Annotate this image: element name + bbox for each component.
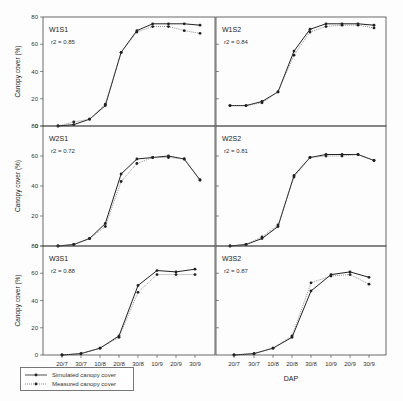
data-point (194, 268, 197, 271)
data-point (151, 25, 154, 28)
data-point (120, 180, 123, 183)
data-point (135, 158, 138, 161)
data-point (357, 153, 360, 156)
data-point (199, 24, 202, 27)
data-point (373, 27, 376, 30)
measured-series-line (58, 158, 200, 247)
x-tick-label: 30/9 (189, 361, 201, 367)
y-tick-label: 80 (31, 14, 38, 20)
panel-frame (43, 17, 215, 126)
data-point (293, 50, 296, 53)
y-tick-label: 80 (31, 123, 38, 129)
data-point (261, 101, 264, 104)
data-point (341, 24, 344, 27)
y-tick-label: 20 (31, 213, 38, 219)
data-point (357, 24, 360, 27)
data-point (199, 179, 202, 182)
x-tick-label: 20/7 (228, 361, 240, 367)
panel-r2: r2 = 0.87 (224, 268, 249, 274)
data-point (104, 225, 107, 228)
data-point (80, 352, 83, 355)
legend-item-measured: Measured canopy cover (25, 379, 116, 388)
data-point (61, 354, 64, 357)
simulated-series-line (62, 269, 195, 355)
data-point (253, 352, 256, 355)
data-point (72, 121, 75, 124)
panel-title: W2S2 (222, 135, 241, 142)
canopy-cover-figure: 020406080Canopy cover (%)W1S1r2 = 0.85W1… (0, 0, 403, 401)
y-tick-label: 0 (35, 352, 39, 358)
data-point (309, 156, 312, 159)
panel-frame (43, 126, 215, 246)
data-point (261, 236, 264, 239)
panel-frame (216, 17, 386, 126)
data-point (368, 283, 371, 286)
data-point (175, 270, 178, 273)
data-point (118, 336, 121, 339)
data-point (325, 25, 328, 28)
x-tick-label: 20/9 (344, 361, 356, 367)
x-tick-label: 10/9 (325, 361, 337, 367)
panel-frame (216, 246, 386, 355)
data-point (120, 173, 123, 176)
data-point (156, 269, 159, 272)
panel-r2: r2 = 0.84 (224, 39, 249, 45)
data-point (330, 275, 333, 278)
y-axis-label: Canopy cover (%) (14, 274, 22, 326)
panel-r2: r2 = 0.81 (224, 148, 249, 154)
data-point (373, 159, 376, 162)
data-point (310, 281, 313, 284)
x-tick-label: 30/9 (363, 361, 375, 367)
data-point (341, 155, 344, 158)
panel-r2: r2 = 0.72 (51, 148, 76, 154)
data-point (373, 24, 376, 27)
data-point (325, 155, 328, 158)
panel-r2: r2 = 0.85 (51, 39, 76, 45)
panel-r2: r2 = 0.88 (51, 268, 76, 274)
legend: Simulated canopy cover Measured canopy c… (20, 367, 134, 391)
data-point (310, 290, 313, 293)
data-point (156, 273, 159, 276)
panel-title: W3S2 (222, 255, 241, 262)
data-point (309, 28, 312, 31)
y-tick-label: 80 (31, 243, 38, 249)
data-point (167, 156, 170, 159)
y-tick-label: 60 (31, 41, 38, 47)
measured-series-line (230, 155, 374, 247)
data-point (167, 25, 170, 28)
panel-frame (43, 246, 215, 355)
y-tick-label: 60 (31, 270, 38, 276)
panel-title: W3S1 (49, 255, 68, 262)
data-point (349, 273, 352, 276)
x-tick-label: 20/8 (286, 361, 298, 367)
data-point (293, 176, 296, 179)
panel-title: W1S1 (49, 26, 68, 33)
y-tick-label: 40 (31, 298, 38, 304)
data-point (135, 31, 138, 34)
data-point (194, 273, 197, 276)
data-point (137, 284, 140, 287)
data-point (233, 354, 236, 357)
y-tick-label: 40 (31, 183, 38, 189)
x-tick-label: 30/8 (132, 361, 144, 367)
data-point (229, 104, 232, 107)
y-tick-label: 20 (31, 96, 38, 102)
data-point (272, 347, 275, 350)
x-axis-label: DAP (284, 375, 299, 382)
data-point (135, 162, 138, 165)
measured-series-line (62, 275, 195, 355)
data-point (277, 224, 280, 227)
data-point (183, 29, 186, 32)
data-point (99, 347, 102, 350)
data-point (88, 237, 91, 240)
data-point (88, 118, 91, 121)
data-point (245, 243, 248, 246)
data-point (183, 22, 186, 25)
legend-label-measured: Measured canopy cover (52, 381, 116, 387)
data-point (325, 22, 328, 25)
panel-frame (216, 126, 386, 246)
solid-line-marker-icon (25, 372, 47, 378)
data-point (368, 276, 371, 279)
legend-item-simulated: Simulated canopy cover (25, 370, 116, 379)
x-tick-label: 10/9 (151, 361, 163, 367)
